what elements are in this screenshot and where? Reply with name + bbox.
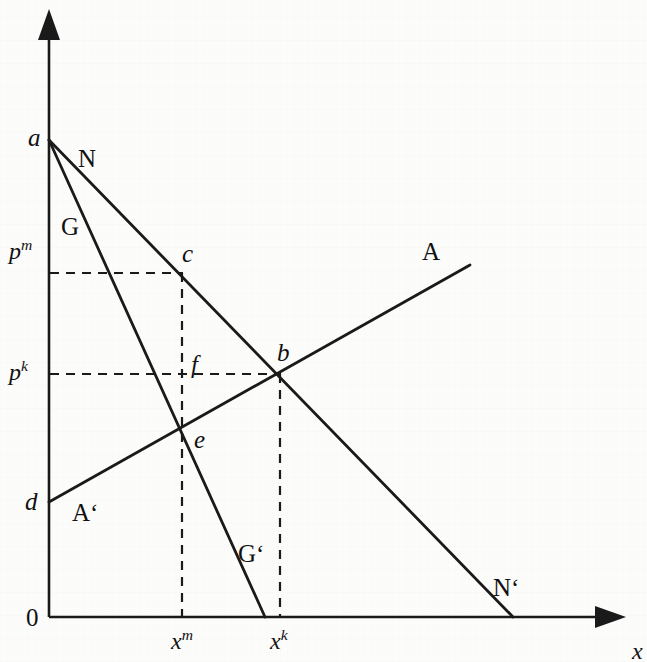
x-tick-label-xk: xk: [270, 627, 288, 653]
point-label-a: a: [28, 125, 41, 150]
y-axis-arrow-icon: [38, 9, 60, 40]
y-tick-pk-sup: k: [21, 357, 28, 374]
y-tick-pm-sup: m: [21, 236, 32, 253]
x-tick-xm-sup: m: [182, 626, 193, 643]
axis-origin-label: 0: [26, 605, 39, 630]
x-axis-label: x: [632, 639, 643, 662]
curve-N: [49, 140, 513, 617]
x-tick-xk-base: x: [270, 628, 281, 654]
y-tick-pm-base: p: [9, 238, 21, 264]
curve-label-G: G: [61, 214, 79, 239]
y-tick-pk-base: p: [9, 359, 21, 385]
x-tick-xk-sup: k: [281, 626, 288, 643]
curve-label-G-prime: G‘: [238, 541, 264, 566]
curve-A: [49, 265, 470, 502]
curve-label-N: N: [78, 146, 96, 171]
point-label-b: b: [277, 340, 290, 365]
curve-label-N-prime: N‘: [493, 575, 519, 600]
point-label-e: e: [194, 427, 205, 452]
x-tick-label-xm: xm: [171, 627, 193, 653]
diagram-canvas: [0, 0, 647, 662]
curve-label-A: A: [422, 239, 440, 264]
curve-G: [49, 140, 265, 617]
figure-root: 0 x pm pk xm xk a b c d e f N G A A‘ G‘ …: [0, 0, 647, 662]
curve-label-A-prime: A‘: [72, 500, 98, 525]
x-tick-xm-base: x: [171, 628, 182, 654]
y-tick-label-pk: pk: [9, 358, 28, 384]
point-label-c: c: [182, 241, 193, 266]
axes-group: [38, 9, 626, 628]
curves-group: [49, 140, 513, 617]
y-tick-label-pm: pm: [9, 237, 32, 263]
point-label-d: d: [25, 489, 38, 514]
point-label-f: f: [191, 352, 198, 377]
x-axis-arrow-icon: [595, 606, 626, 628]
